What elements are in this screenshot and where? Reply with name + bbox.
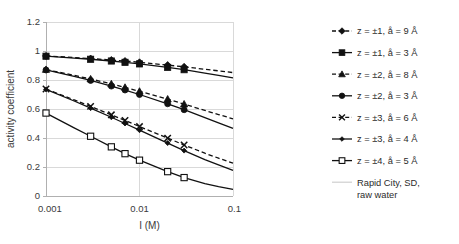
data-point-marker: [181, 67, 187, 73]
x-axis-title: I (M): [139, 220, 160, 231]
x-axis-tick-labels: 0.0010.010.1: [38, 203, 241, 214]
data-point-marker: [181, 107, 187, 113]
gridlines: [46, 22, 233, 196]
data-point-marker: [43, 53, 49, 59]
data-point-marker: [165, 141, 170, 146]
data-point-marker: [108, 144, 114, 150]
legend-label-2: z = ±2, å = 8 Å: [357, 70, 418, 80]
data-point-marker: [181, 174, 187, 180]
data-point-marker: [339, 93, 345, 99]
y-axis-title: activity coefficient: [5, 70, 16, 148]
chart-canvas: 0.0010.010.1 00.20.40.60.811.2 I (M)acti…: [0, 0, 459, 244]
data-point-marker: [122, 151, 128, 157]
x-tick-label: 0.1: [228, 203, 241, 214]
data-point-marker: [165, 101, 171, 107]
data-point-marker: [88, 133, 94, 139]
legend-label-5: z = ±3, å = 4 Å: [357, 134, 418, 144]
chart-legend: z = ±1, å = 9 Åz = ±1, å = 3 Åz = ±2, å …: [332, 26, 420, 200]
data-point-marker: [122, 87, 128, 93]
data-point-marker: [88, 77, 94, 83]
annotation-line-2: raw water: [357, 190, 397, 200]
y-tick-label: 0.8: [27, 74, 40, 85]
data-point-marker: [181, 142, 187, 148]
data-point-marker: [339, 158, 345, 164]
data-point-marker: [137, 92, 143, 98]
data-point-marker: [182, 148, 187, 153]
legend-label-6: z = ±4, å = 5 Å: [357, 156, 418, 166]
data-point-marker: [339, 28, 345, 34]
data-point-marker: [339, 50, 345, 56]
y-tick-label: 0: [35, 190, 40, 201]
data-point-marker: [43, 110, 49, 116]
legend-label-0: z = ±1, å = 9 Å: [357, 26, 418, 36]
data-point-marker: [136, 61, 142, 67]
data-point-marker: [108, 58, 114, 64]
data-point-marker: [340, 137, 345, 142]
y-tick-label: 0.6: [27, 103, 40, 114]
y-tick-label: 0.4: [27, 132, 40, 143]
data-point-marker: [108, 83, 114, 89]
legend-label-4: z = ±3, å = 6 Å: [357, 113, 418, 123]
y-tick-label: 0.2: [27, 161, 40, 172]
legend-label-3: z = ±2, å = 3 Å: [357, 91, 418, 101]
data-point-marker: [122, 59, 128, 65]
data-point-marker: [165, 169, 171, 175]
legend-label-1: z = ±1, å = 3 Å: [357, 48, 418, 58]
annotation-line-1: Rapid City, SD,: [357, 178, 420, 188]
activity-coefficient-chart: 0.0010.010.1 00.20.40.60.811.2 I (M)acti…: [0, 0, 459, 244]
y-tick-label: 1: [35, 45, 40, 56]
data-point-marker: [88, 56, 94, 62]
y-tick-label: 1.2: [27, 16, 40, 27]
x-tick-label: 0.01: [130, 203, 149, 214]
data-point-marker: [165, 64, 171, 70]
data-point-marker: [136, 157, 142, 163]
x-tick-label: 0.001: [38, 203, 62, 214]
y-axis-tick-labels: 00.20.40.60.811.2: [27, 16, 40, 201]
data-point-marker: [43, 67, 49, 73]
